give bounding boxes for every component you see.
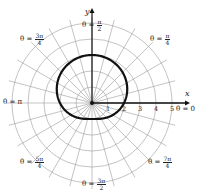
angle-prefix: θ = [20, 158, 35, 166]
angle-prefix: θ = [82, 21, 97, 29]
grid-spoke [92, 81, 175, 103]
tick-2: 2 [122, 106, 126, 113]
angle-label-3pi4: θ = 3π4 [20, 33, 44, 46]
angle-label-7pi4: θ = 7π4 [148, 156, 172, 169]
denominator: 4 [38, 40, 42, 46]
pole-dot [90, 101, 94, 105]
angle-label-pi2: θ = π2 [82, 19, 102, 32]
grid-spoke [49, 29, 92, 103]
angle-value: π [18, 98, 23, 106]
angle-prefix: θ = [150, 35, 165, 43]
denominator: 4 [166, 163, 170, 169]
angle-prefix: θ = [176, 105, 191, 113]
angle-label-pi4: θ = π4 [150, 33, 170, 46]
angle-prefix: θ = [148, 158, 163, 166]
grid-spoke [92, 29, 135, 103]
tick-5: 5 [170, 106, 174, 113]
angle-label-zero: θ = 0 [176, 106, 195, 113]
denominator: 4 [166, 40, 170, 46]
y-axis-label: y [85, 8, 90, 16]
fraction: 3π2 [97, 178, 107, 191]
grid-spoke [18, 103, 92, 146]
tick-3: 3 [138, 106, 142, 113]
angle-label-5pi4: θ = 5π4 [20, 156, 44, 169]
grid-spoke [9, 103, 92, 125]
angle-prefix: θ = [20, 35, 35, 43]
y-axis-arrow-icon [90, 8, 95, 13]
fraction: π4 [165, 33, 171, 46]
tick-1: 1 [106, 106, 110, 113]
fraction: π2 [97, 19, 103, 32]
tick-4: 4 [154, 106, 158, 113]
angle-prefix: θ = [3, 98, 18, 106]
x-axis-label: x [185, 90, 190, 98]
grid-spoke [92, 60, 166, 103]
denominator: 2 [100, 185, 104, 191]
angle-label-3pi2: θ = 3π2 [82, 178, 106, 191]
angle-value: 0 [191, 105, 195, 113]
fraction: 5π4 [35, 156, 45, 169]
angle-prefix: θ = [82, 180, 97, 188]
grid-spoke [18, 60, 92, 103]
fraction: 7π4 [163, 156, 173, 169]
fraction: 3π4 [35, 33, 45, 46]
grid-spoke [92, 103, 175, 125]
denominator: 2 [98, 26, 102, 32]
angle-label-pi: θ = π [3, 99, 22, 106]
denominator: 4 [38, 163, 42, 169]
